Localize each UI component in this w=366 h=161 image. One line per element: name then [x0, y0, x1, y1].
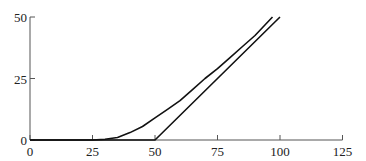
- y-tick-label: 50: [14, 10, 27, 25]
- ticks: 025507510012502550: [14, 10, 352, 159]
- x-tick-label: 125: [333, 144, 353, 159]
- x-tick-label: 25: [86, 144, 99, 159]
- y-tick-label: 0: [21, 133, 28, 148]
- x-tick-label: 100: [270, 144, 290, 159]
- x-tick-label: 0: [27, 144, 34, 159]
- series: [30, 17, 280, 140]
- series-curve: [30, 17, 273, 140]
- x-tick-label: 75: [211, 144, 224, 159]
- series-line: [30, 17, 280, 140]
- axes: [30, 17, 343, 140]
- y-tick-label: 25: [14, 72, 27, 87]
- x-tick-label: 50: [149, 144, 162, 159]
- chart: 025507510012502550: [0, 0, 366, 161]
